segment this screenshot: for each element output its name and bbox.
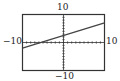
y-max-label: 10 [57,3,68,12]
x-min-label: −10 [3,37,22,46]
x-max-label: 10 [106,37,117,46]
y-min-label: −10 [55,72,74,81]
axes [23,15,105,71]
